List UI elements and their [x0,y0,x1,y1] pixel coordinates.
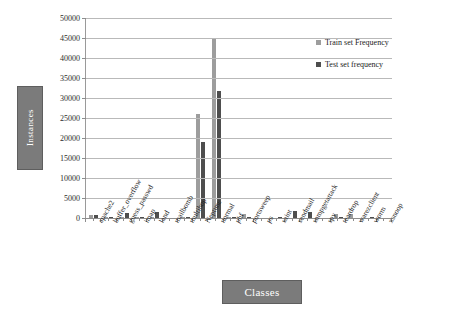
gridline [86,98,392,99]
y-tick-mark [82,98,86,99]
bar [212,38,216,218]
y-axis-tick-label: 25000 [60,114,80,123]
legend-swatch-icon [316,62,321,67]
y-tick-mark [82,78,86,79]
x-axis-title-box: Classes [222,280,302,304]
y-tick-mark [82,198,86,199]
y-axis-tick-label: 10000 [60,174,80,183]
y-tick-mark [82,18,86,19]
legend-swatch-icon [316,40,321,45]
y-tick-mark [82,178,86,179]
y-axis-tick-label: 5000 [64,194,80,203]
gridline [86,18,392,19]
y-tick-mark [82,138,86,139]
y-axis-tick-label: 40000 [60,54,80,63]
y-tick-mark [82,118,86,119]
gridline [86,178,392,179]
y-axis-tick-label: 30000 [60,94,80,103]
y-axis-tick-label: 45000 [60,34,80,43]
chart-figure: Instances 050001000015000200002500030000… [0,0,474,314]
y-axis-tick-labels: 0500010000150002000025000300003500040000… [52,18,84,219]
legend-item-label: Test set frequency [325,60,383,69]
y-axis-tick-label: 50000 [60,14,80,23]
x-axis-category-labels: apache2buffer_overflowguess_passwdimapla… [52,220,392,280]
chart-legend: Train set FrequencyTest set frequency [316,38,444,80]
legend-item-label: Train set Frequency [325,38,389,47]
legend-item: Train set Frequency [316,38,389,47]
gridline [86,118,392,119]
legend-item: Test set frequency [316,60,383,69]
gridline [86,138,392,139]
y-tick-mark [82,38,86,39]
y-tick-mark [82,158,86,159]
y-tick-mark [82,58,86,59]
y-axis-tick-label: 35000 [60,74,80,83]
y-axis-tick-label: 15000 [60,154,80,163]
x-axis-title-label: Classes [244,286,279,298]
y-axis-title-box: Instances [17,86,43,170]
y-axis-title-label: Instances [25,109,35,146]
y-axis-tick-label: 20000 [60,134,80,143]
gridline [86,158,392,159]
